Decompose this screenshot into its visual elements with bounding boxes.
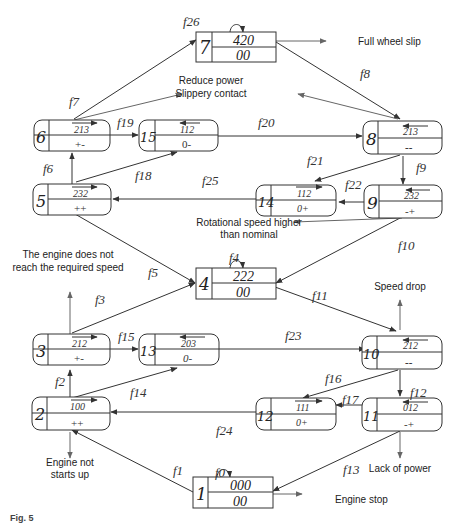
note-engine-stop: Engine stop	[335, 494, 388, 505]
label-f16: f16	[325, 371, 342, 386]
label-f2: f2	[55, 374, 66, 389]
node-11-number: 11	[363, 409, 380, 424]
edge-f3	[72, 283, 195, 333]
node-10-number: 10	[363, 347, 380, 362]
node-9-top: 232	[404, 190, 419, 201]
state-diagram: 7 420 00 6 213 +- 15 112 0- 8 213 --	[0, 0, 459, 524]
node-5-number: 5	[36, 192, 46, 211]
node-4[interactable]: 4 222 00	[196, 268, 276, 300]
node-13-number: 13	[140, 344, 157, 359]
note-engine-not-starts-1: Engine not	[46, 457, 94, 468]
node-15-bottom: 0-	[182, 138, 192, 150]
label-f1: f1	[173, 463, 183, 478]
edge-f14	[72, 368, 177, 398]
node-15-top: 112	[180, 124, 194, 135]
node-9-bottom: -+	[405, 205, 415, 217]
node-1[interactable]: 1 000 00	[193, 477, 273, 509]
label-f26: f26	[183, 14, 200, 29]
node-2[interactable]: 2 100 ++	[32, 397, 110, 430]
node-5[interactable]: 5 232 ++	[33, 184, 111, 215]
node-9[interactable]: 9 232 -+	[364, 185, 442, 218]
node-1-bottom: 00	[233, 494, 247, 509]
node-8[interactable]: 8 213 --	[363, 121, 442, 154]
node-3-number: 3	[36, 342, 46, 361]
label-f23: f23	[285, 328, 302, 343]
node-12-bottom: 0+	[296, 417, 308, 428]
label-f15: f15	[118, 329, 135, 344]
node-4-number: 4	[198, 274, 210, 294]
node-1-top: 000	[230, 478, 251, 493]
edge-slippery	[298, 94, 398, 119]
node-7-bottom: 00	[236, 48, 250, 63]
node-6-bottom: +-	[75, 138, 85, 150]
note-engine-not-starts-2: starts up	[51, 469, 90, 480]
node-12-top: 111	[296, 402, 310, 413]
node-2-number: 2	[34, 405, 45, 424]
label-f19: f19	[117, 115, 134, 130]
label-f20: f20	[258, 115, 275, 130]
node-13-top: 203	[181, 338, 196, 349]
label-f0: f0	[215, 465, 226, 480]
node-3[interactable]: 3 212 +-	[33, 334, 110, 365]
node-6[interactable]: 6 213 +-	[34, 120, 110, 151]
label-f6: f6	[43, 161, 54, 176]
node-5-top: 232	[73, 188, 88, 199]
note-rotational-2: than nominal	[220, 229, 277, 240]
node-7-top: 420	[233, 33, 254, 48]
node-12-number: 12	[257, 409, 274, 424]
node-7[interactable]: 7 420 00	[196, 32, 276, 63]
node-15[interactable]: 15 112 0-	[139, 120, 218, 151]
label-f4: f4	[229, 250, 240, 265]
node-13[interactable]: 13 203 0-	[139, 334, 219, 365]
note-engine-not-reach-1: The engine does not	[22, 249, 113, 260]
note-rotational-1: Rotational speed higher	[196, 217, 302, 228]
label-f21: f21	[307, 153, 324, 168]
node-11-bottom: -+	[404, 418, 414, 430]
edge-f8	[276, 42, 400, 119]
node-4-bottom: 00	[236, 285, 250, 300]
node-6-top: 213	[74, 124, 89, 135]
label-f9: f9	[416, 160, 427, 175]
node-2-bottom: ++	[71, 417, 83, 429]
edge-f13	[273, 431, 400, 491]
node-6-number: 6	[36, 128, 46, 147]
edge-rotational	[294, 218, 402, 222]
node-3-bottom: +-	[74, 352, 84, 364]
label-f24: f24	[216, 423, 233, 438]
node-1-number: 1	[196, 484, 207, 504]
node-8-number: 8	[366, 129, 377, 149]
node-11[interactable]: 11 012 -+	[362, 398, 442, 431]
label-f3: f3	[95, 292, 106, 307]
label-f5: f5	[148, 265, 159, 280]
node-8-top: 213	[403, 126, 418, 137]
label-f12: f12	[410, 385, 427, 400]
node-15-number: 15	[140, 130, 157, 145]
node-14[interactable]: 14 112 0+	[256, 185, 336, 216]
loop-f26	[230, 25, 243, 33]
label-f13: f13	[343, 462, 360, 477]
note-lack-of-power: Lack of power	[369, 463, 432, 474]
node-4-top: 222	[233, 269, 254, 284]
node-10-bottom: --	[405, 356, 413, 368]
edge-f7	[74, 40, 196, 119]
node-3-top: 212	[72, 338, 87, 349]
node-9-number: 9	[367, 193, 378, 213]
node-12[interactable]: 12 111 0+	[256, 398, 336, 430]
note-slippery-contact: Slippery contact	[175, 88, 246, 99]
note-speed-drop: Speed drop	[374, 281, 426, 292]
figure-caption: Fig. 5	[10, 513, 34, 523]
label-f8: f8	[360, 66, 371, 81]
label-f22: f22	[345, 177, 362, 192]
node-10[interactable]: 10 212 --	[362, 336, 442, 369]
note-full-wheel-slip: Full wheel slip	[358, 36, 421, 47]
label-f10: f10	[398, 238, 415, 253]
label-f17: f17	[342, 392, 359, 407]
node-14-top: 112	[297, 188, 311, 199]
node-11-top: 012	[403, 402, 418, 413]
note-reduce-power: Reduce power	[179, 75, 244, 86]
node-14-number: 14	[258, 195, 275, 210]
edge-f11	[275, 287, 396, 331]
label-f25: f25	[202, 173, 219, 188]
label-f7: f7	[69, 94, 80, 109]
node-5-bottom: ++	[74, 202, 86, 214]
